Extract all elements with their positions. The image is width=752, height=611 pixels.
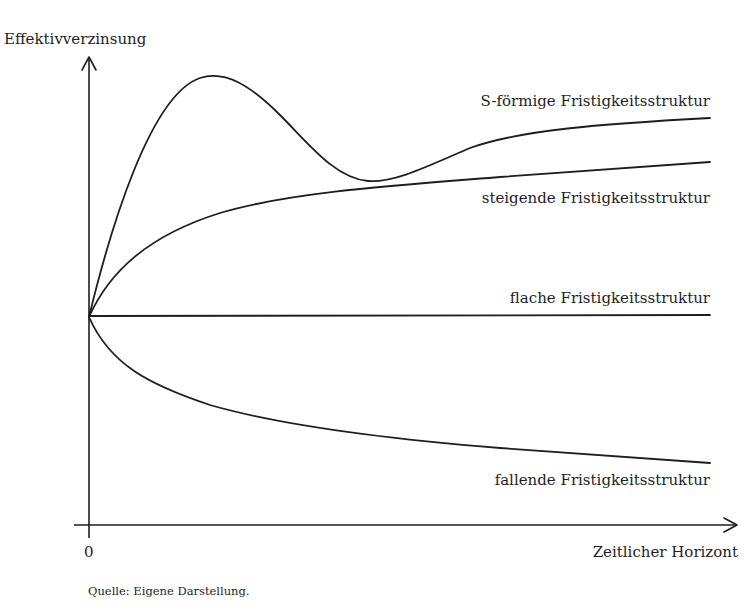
curve-flat — [89, 315, 710, 316]
curve-label-rising: steigende Fristigkeitsstruktur — [482, 189, 711, 207]
curve-label-falling: fallende Fristigkeitsstruktur — [495, 471, 711, 489]
origin-label: 0 — [84, 543, 94, 561]
curve-falling — [89, 317, 710, 463]
x-axis-label: Zeitlicher Horizont — [593, 543, 738, 561]
source-note: Quelle: Eigene Darstellung. — [88, 584, 250, 598]
term-structure-diagram: Effektivverzinsung 0 Zeitlicher Horizont… — [0, 0, 752, 611]
y-axis-label: Effektivverzinsung — [4, 30, 147, 48]
curve-label-s-shaped: S-förmige Fristigkeitsstruktur — [481, 92, 711, 110]
curve-label-flat: flache Fristigkeitsstruktur — [510, 289, 711, 307]
